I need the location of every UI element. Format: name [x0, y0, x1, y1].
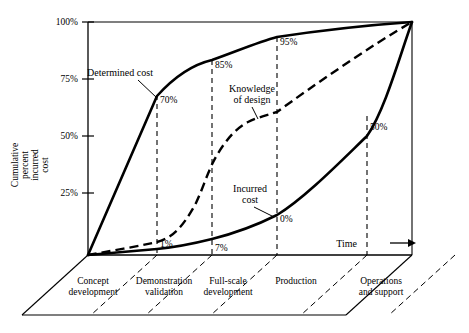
- value-label-7: 7%: [215, 243, 228, 253]
- annotation-determined-cost: Determined cost: [87, 67, 157, 98]
- value-label-70: 70%: [160, 95, 178, 105]
- annotation-incurred-leader: [254, 207, 274, 217]
- phase-label-fullscale-line-2: development: [203, 287, 252, 297]
- phase-labels: Concept development Demonstration valida…: [68, 276, 403, 297]
- phase-label-production: Production: [275, 276, 317, 286]
- annotation-knowledge-of-design: Knowledge of design: [229, 83, 276, 119]
- y-axis-tick-labels: 100% 75% 50% 25%: [56, 17, 78, 198]
- phase-label-demonstration-line-1: Demonstration: [136, 276, 193, 286]
- y-axis-title-line-2: percent: [20, 151, 30, 179]
- y-axis-title-line-3: incurred: [30, 149, 40, 181]
- annotation-determined-cost-leader: [138, 80, 157, 98]
- value-label-95: 95%: [280, 37, 298, 47]
- x-axis-title: Time: [336, 238, 357, 249]
- cost-commitment-chart: 100% 75% 50% 25% Cumulative percent incu…: [0, 0, 469, 333]
- x-axis-title-group: Time: [336, 238, 416, 249]
- y-tick-label-75: 75%: [61, 74, 79, 84]
- value-label-50: 50%: [370, 122, 388, 132]
- phase-label-operations-line-1: Operations: [360, 276, 402, 286]
- phase-label-demonstration-line-2: validation: [145, 287, 183, 297]
- y-tick-label-25: 25%: [61, 188, 79, 198]
- value-label-1: 1%: [160, 239, 173, 249]
- annotation-knowledge-line-1: Knowledge: [229, 83, 276, 94]
- series-incurred-cost-line: [88, 22, 412, 255]
- annotation-incurred-line-2: cost: [242, 194, 258, 205]
- phase-label-fullscale-line-1: Full-scale: [209, 276, 246, 286]
- annotation-knowledge-line-2: of design: [234, 94, 271, 105]
- data-value-labels: 70% 85% 95% 1% 7% 0% 50%: [160, 37, 388, 253]
- annotation-knowledge-leader: [252, 107, 258, 119]
- annotation-determined-cost-label: Determined cost: [87, 67, 153, 78]
- y-axis-title-line-4: cost: [40, 157, 50, 173]
- phase-label-concept-line-2: development: [68, 287, 117, 297]
- y-axis-title-line-1: Cumulative: [10, 143, 20, 187]
- y-tick-label-50: 50%: [61, 131, 79, 141]
- phase-label-concept-line-1: Concept: [77, 276, 109, 286]
- phase-label-operations-line-2: and support: [359, 287, 404, 297]
- figure-container: 100% 75% 50% 25% Cumulative percent incu…: [0, 0, 469, 333]
- annotation-incurred-line-1: Incurred: [233, 183, 267, 194]
- y-axis-title: Cumulative percent incurred cost: [10, 143, 50, 187]
- value-label-0: 0%: [280, 214, 293, 224]
- y-tick-label-100: 100%: [56, 17, 78, 27]
- annotation-incurred-cost: Incurred cost: [233, 183, 274, 217]
- value-label-85: 85%: [215, 60, 233, 70]
